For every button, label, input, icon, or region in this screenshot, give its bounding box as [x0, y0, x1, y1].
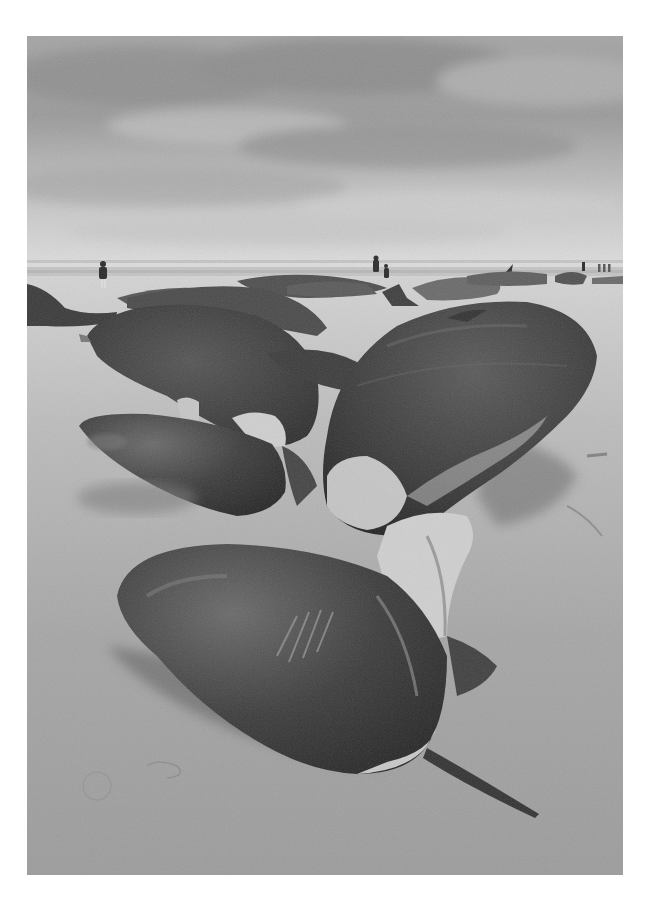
whale-beach-scene	[27, 36, 623, 875]
film-grain	[27, 36, 623, 875]
photograph: Black-and-white photograph of stranded s…	[27, 36, 623, 875]
